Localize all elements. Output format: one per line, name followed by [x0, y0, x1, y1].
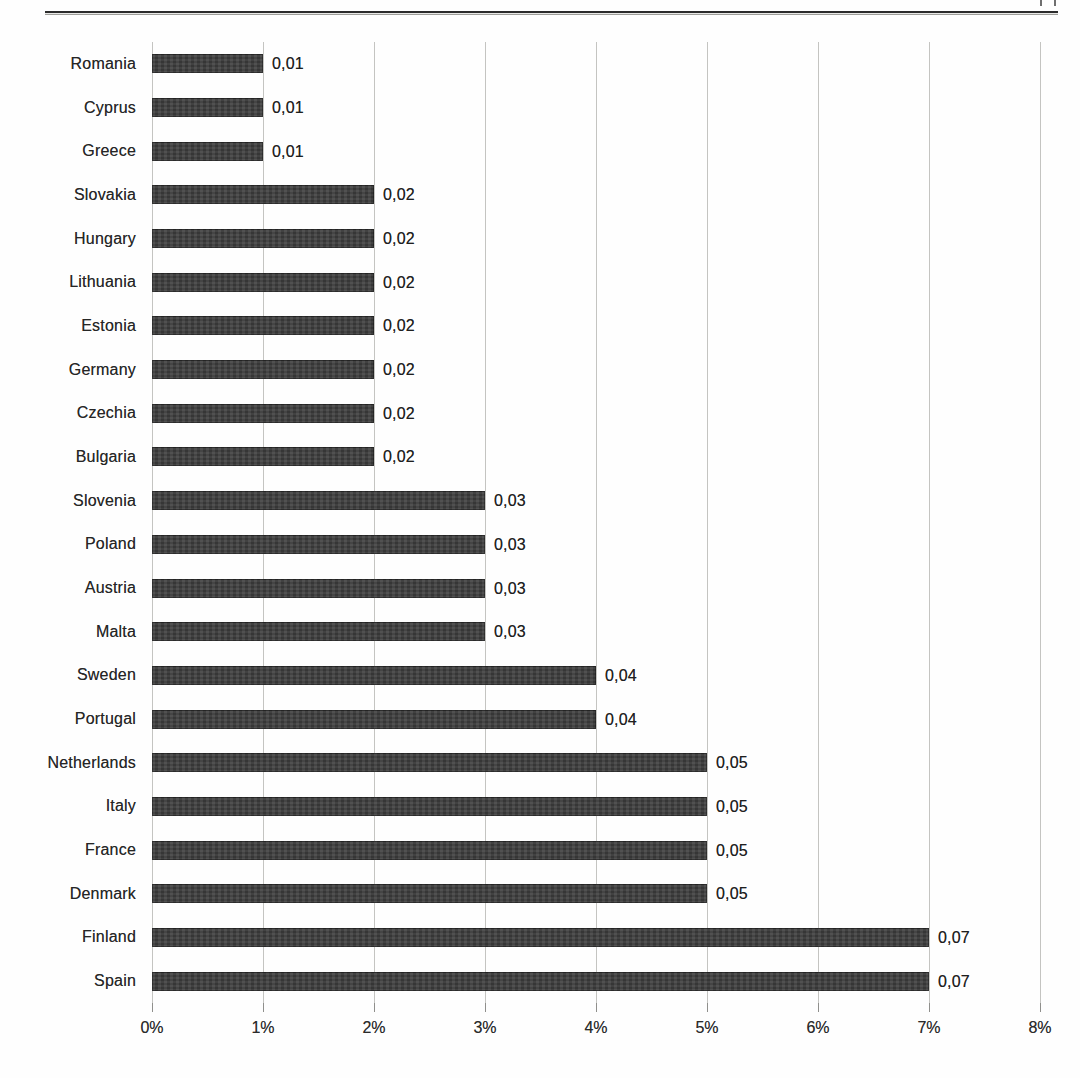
bar	[152, 491, 485, 510]
category-label: Bulgaria	[0, 435, 136, 479]
category-label: Netherlands	[0, 741, 136, 785]
gridline	[1040, 42, 1041, 1003]
bar	[152, 579, 485, 598]
bar-value-label: 0,01	[272, 99, 304, 117]
bar	[152, 666, 596, 685]
x-axis-tick	[263, 1003, 264, 1012]
bar-value-label: 0,05	[716, 885, 748, 903]
x-axis-tick-label: 7%	[917, 1019, 940, 1037]
category-label: Greece	[0, 129, 136, 173]
category-label: Spain	[0, 959, 136, 1003]
bar-value-label: 0,03	[494, 492, 526, 510]
bar-value-label: 0,01	[272, 143, 304, 161]
bar	[152, 273, 374, 292]
bar	[152, 797, 707, 816]
bar-chart: RomaniaCyprusGreeceSlovakiaHungaryLithua…	[0, 0, 1080, 1078]
bar-value-label: 0,02	[383, 274, 415, 292]
category-label: Hungary	[0, 217, 136, 261]
bar-value-label: 0,02	[383, 361, 415, 379]
category-label: Romania	[0, 42, 136, 86]
category-label: Denmark	[0, 872, 136, 916]
bar	[152, 753, 707, 772]
x-axis-tick-label: 5%	[695, 1019, 718, 1037]
category-label: France	[0, 828, 136, 872]
x-axis-tick-label: 6%	[806, 1019, 829, 1037]
bar	[152, 185, 374, 204]
x-axis-tick-label: 0%	[140, 1019, 163, 1037]
bar-value-label: 0,02	[383, 405, 415, 423]
bar	[152, 447, 374, 466]
category-label: Lithuania	[0, 260, 136, 304]
category-label: Cyprus	[0, 86, 136, 130]
bar-value-label: 0,03	[494, 536, 526, 554]
bar-value-label: 0,04	[605, 667, 637, 685]
category-label: Poland	[0, 523, 136, 567]
category-label: Portugal	[0, 697, 136, 741]
x-axis-tick-label: 1%	[251, 1019, 274, 1037]
bar-value-label: 0,07	[938, 973, 970, 991]
bar-value-label: 0,07	[938, 929, 970, 947]
x-axis-tick	[707, 1003, 708, 1012]
bar	[152, 142, 263, 161]
bar-value-label: 0,02	[383, 186, 415, 204]
category-label: Germany	[0, 348, 136, 392]
bar-value-label: 0,03	[494, 580, 526, 598]
bar-value-label: 0,02	[383, 317, 415, 335]
x-axis-tick	[1040, 1003, 1041, 1012]
bar-value-label: 0,02	[383, 230, 415, 248]
x-axis-tick	[374, 1003, 375, 1012]
bar-value-label: 0,04	[605, 711, 637, 729]
bar	[152, 98, 263, 117]
category-label: Estonia	[0, 304, 136, 348]
gridline	[818, 42, 819, 1003]
bar-value-label: 0,05	[716, 842, 748, 860]
category-label: Slovenia	[0, 479, 136, 523]
bar	[152, 54, 263, 73]
category-label: Finland	[0, 916, 136, 960]
bar	[152, 884, 707, 903]
x-axis-tick-label: 4%	[584, 1019, 607, 1037]
bar	[152, 841, 707, 860]
category-label: Sweden	[0, 654, 136, 698]
bar	[152, 928, 929, 947]
page: RomaniaCyprusGreeceSlovakiaHungaryLithua…	[0, 0, 1080, 1078]
x-axis-tick-label: 2%	[362, 1019, 385, 1037]
bar	[152, 972, 929, 991]
bar-value-label: 0,05	[716, 798, 748, 816]
x-axis-tick	[929, 1003, 930, 1012]
category-label: Malta	[0, 610, 136, 654]
bar-value-label: 0,05	[716, 754, 748, 772]
category-label: Slovakia	[0, 173, 136, 217]
category-label: Austria	[0, 566, 136, 610]
bar	[152, 316, 374, 335]
bar-value-label: 0,03	[494, 623, 526, 641]
bar-value-label: 0,02	[383, 448, 415, 466]
bar	[152, 360, 374, 379]
x-axis-tick-label: 3%	[473, 1019, 496, 1037]
x-axis-tick	[596, 1003, 597, 1012]
x-axis-tick	[818, 1003, 819, 1012]
category-label: Czechia	[0, 391, 136, 435]
category-label: Italy	[0, 785, 136, 829]
bar	[152, 229, 374, 248]
bar	[152, 622, 485, 641]
gridline	[929, 42, 930, 1003]
bar	[152, 710, 596, 729]
x-axis-tick	[152, 1003, 153, 1012]
bar-value-label: 0,01	[272, 55, 304, 73]
x-axis-tick	[485, 1003, 486, 1012]
bar	[152, 535, 485, 554]
x-axis-tick-label: 8%	[1028, 1019, 1051, 1037]
bar	[152, 404, 374, 423]
